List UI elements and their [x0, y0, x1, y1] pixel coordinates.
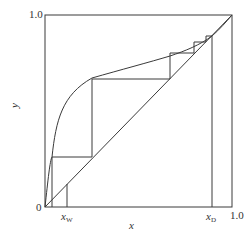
- x-max-label: 1.0: [230, 210, 244, 221]
- x_d-label: xD: [206, 211, 216, 224]
- origin-label: 0: [36, 202, 42, 213]
- stage-steps: [52, 36, 212, 207]
- x_d-subscript: D: [211, 216, 216, 224]
- y-max-label: 1.0: [29, 9, 43, 20]
- diagonal-line: [45, 15, 232, 207]
- x_w-subscript: W: [66, 216, 73, 224]
- x-axis-label: x: [129, 220, 134, 231]
- x_w-label: xW: [61, 211, 73, 224]
- y-axis-label: y: [9, 103, 20, 108]
